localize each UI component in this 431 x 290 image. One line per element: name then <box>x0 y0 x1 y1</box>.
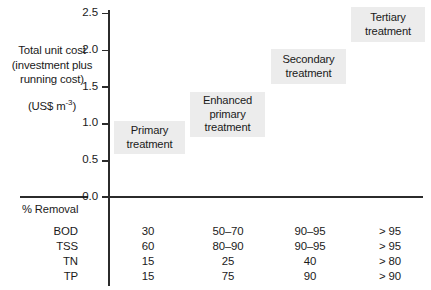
figure-root: 2.5 2.0 1.5 1.0 0.5 0.0 Total unit cost … <box>0 0 431 290</box>
category-box-secondary-line-1: Secondary <box>282 53 334 67</box>
table-cell-tp-tertiary: > 90 <box>353 270 427 283</box>
table-cell-tn-secondary: 40 <box>273 255 347 268</box>
y-tick-label-0.5: 0.5 <box>62 154 98 166</box>
category-box-secondary-line-2: treatment <box>286 67 332 81</box>
category-box-primary-line-1: Primary <box>131 124 168 138</box>
table-cell-bod-enhanced: 50–70 <box>191 225 265 238</box>
y-tick-0.5 <box>102 160 109 162</box>
y-axis-units-suffix: ) <box>72 100 76 112</box>
y-tick-label-2.5-wrap: 2.5 <box>62 7 98 19</box>
table-cell-bod-secondary: 90–95 <box>273 225 347 238</box>
y-axis-units-prefix: (US$ m <box>28 100 66 112</box>
category-box-enhanced-line-3: treatment <box>205 121 251 135</box>
y-tick-0.0 <box>102 196 109 198</box>
category-box-tertiary-line-2: treatment <box>365 25 411 39</box>
category-box-primary-treatment: Primary treatment <box>114 121 185 154</box>
removal-table-title: % Removal <box>22 203 78 216</box>
y-tick-label-0.5-wrap: 0.5 <box>62 154 98 166</box>
table-row-label-bod: BOD <box>20 225 78 238</box>
table-cell-tp-primary: 15 <box>111 270 185 283</box>
category-box-enhanced-line-1: Enhanced <box>203 94 252 108</box>
table-cell-tn-tertiary: > 80 <box>353 255 427 268</box>
y-axis-title-line-3: running cost) <box>0 72 104 87</box>
table-cell-tn-primary: 15 <box>111 255 185 268</box>
y-tick-label-1.0: 1.0 <box>62 117 98 129</box>
table-cell-tn-enhanced: 25 <box>191 255 265 268</box>
y-tick-1.0 <box>102 123 109 125</box>
y-tick-2.5 <box>102 13 109 15</box>
y-axis-title: Total unit cost (investment plus running… <box>0 43 104 113</box>
table-cell-bod-tertiary: > 95 <box>353 225 427 238</box>
table-row-label-tp: TP <box>20 270 78 283</box>
table-cell-tss-secondary: 90–95 <box>273 240 347 253</box>
y-tick-label-2.5: 2.5 <box>62 7 98 19</box>
category-box-tertiary-line-1: Tertiary <box>370 11 405 25</box>
y-axis-title-units: (US$ m-3) <box>0 99 104 114</box>
table-cell-tss-enhanced: 80–90 <box>191 240 265 253</box>
category-box-secondary-treatment: Secondary treatment <box>271 49 346 84</box>
table-cell-tp-secondary: 90 <box>273 270 347 283</box>
y-tick-label-0.0: 0.0 <box>62 191 98 203</box>
category-box-enhanced-primary-treatment: Enhanced primary treatment <box>190 92 265 137</box>
y-axis-line <box>108 10 110 286</box>
table-cell-tp-enhanced: 75 <box>191 270 265 283</box>
table-cell-tss-primary: 60 <box>111 240 185 253</box>
y-axis-title-line-2: (investment plus <box>0 58 104 73</box>
y-tick-label-1.0-wrap: 1.0 <box>62 117 98 129</box>
x-axis-line <box>108 196 423 198</box>
table-row-label-tss: TSS <box>20 240 78 253</box>
table-cell-bod-primary: 30 <box>111 225 185 238</box>
category-box-tertiary-treatment: Tertiary treatment <box>351 7 425 42</box>
y-tick-label-0.0-wrap: 0.0 <box>62 191 98 203</box>
category-box-enhanced-line-2: primary <box>209 108 245 122</box>
y-axis-title-line-1: Total unit cost <box>0 43 104 58</box>
table-row-label-tn: TN <box>20 255 78 268</box>
table-cell-tss-tertiary: > 95 <box>353 240 427 253</box>
category-box-primary-line-2: treatment <box>127 138 173 152</box>
